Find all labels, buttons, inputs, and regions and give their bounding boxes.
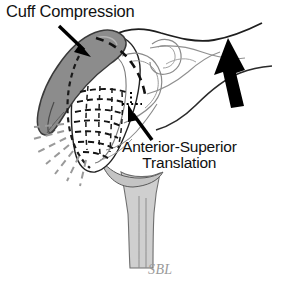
cuff-compression-label: Cuff Compression (6, 3, 135, 20)
shoulder-anatomy-figure: Cuff Compression Anterior-Superior Trans… (0, 0, 281, 286)
anterior-superior-translation-line-1: Anterior-Superior (122, 138, 237, 155)
artist-signature: SBL (148, 262, 173, 278)
cuff-arrow (59, 26, 91, 57)
superior-force-arrow (214, 38, 245, 108)
anterior-superior-translation-label: Anterior-Superior Translation (122, 139, 237, 171)
translation-target-marker (122, 92, 142, 104)
translation-arrow (128, 104, 152, 140)
anterior-superior-translation-line-2: Translation (122, 155, 237, 171)
